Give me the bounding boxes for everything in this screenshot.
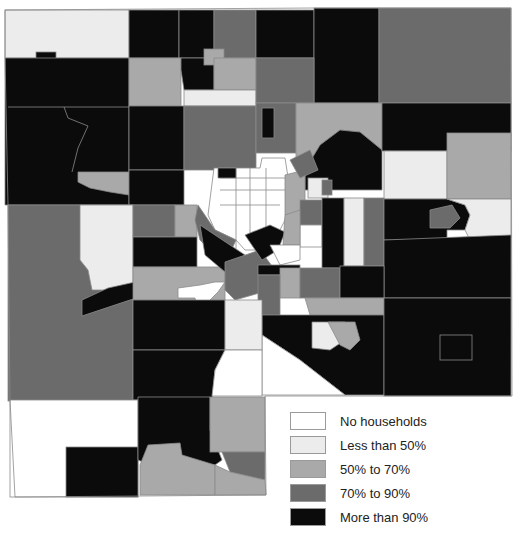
tract [344, 198, 364, 266]
legend-item-no-households: No households [288, 412, 518, 436]
tract [5, 10, 129, 58]
tract [129, 106, 184, 170]
tract [322, 198, 344, 268]
tract [300, 268, 340, 298]
legend-swatch [290, 436, 326, 454]
tract [340, 266, 384, 298]
tract [300, 200, 322, 225]
tract [133, 300, 225, 350]
tract [270, 245, 300, 265]
tract [210, 397, 265, 452]
tract [129, 170, 184, 205]
tract [184, 106, 256, 170]
tract [225, 300, 262, 350]
tract [129, 58, 181, 106]
map-legend: No households Less than 50% 50% to 70% 7… [288, 412, 518, 532]
tract [256, 58, 314, 103]
tract [66, 447, 138, 497]
tract [305, 298, 384, 315]
legend-label: 50% to 70% [340, 462, 410, 477]
legend-label: 70% to 90% [340, 486, 410, 501]
legend-item-50-to-70: 50% to 70% [288, 460, 518, 484]
tract [322, 180, 332, 195]
tract [184, 90, 256, 106]
legend-swatch [290, 508, 326, 526]
tract [447, 133, 511, 199]
tract [262, 108, 274, 138]
legend-item-70-to-90: 70% to 90% [288, 484, 518, 508]
tract [175, 205, 197, 237]
legend-swatch [290, 460, 326, 478]
tract [133, 237, 197, 267]
tract [214, 58, 256, 90]
legend-label: No households [340, 414, 427, 429]
legend-item-more-than-90: More than 90% [288, 508, 518, 532]
tract [129, 10, 179, 58]
tract [379, 8, 511, 103]
tract [384, 298, 511, 396]
tract [300, 225, 322, 247]
legend-label: More than 90% [340, 510, 428, 525]
tract [133, 350, 225, 400]
tract [384, 151, 447, 199]
legend-item-less-than-50: Less than 50% [288, 436, 518, 460]
tract [314, 8, 379, 103]
legend-swatch [290, 412, 326, 430]
tract [256, 10, 314, 58]
tract [364, 198, 384, 266]
legend-swatch [290, 484, 326, 502]
tract [218, 168, 236, 178]
tract [133, 205, 175, 237]
tract [384, 235, 511, 298]
tract [283, 210, 300, 245]
tract [280, 268, 300, 298]
legend-label: Less than 50% [340, 438, 426, 453]
